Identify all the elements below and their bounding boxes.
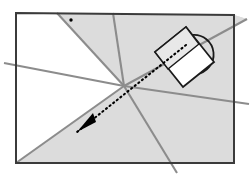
reference-point-dot xyxy=(69,18,72,21)
diagram-root xyxy=(0,0,250,177)
diagram-canvas xyxy=(0,0,250,177)
